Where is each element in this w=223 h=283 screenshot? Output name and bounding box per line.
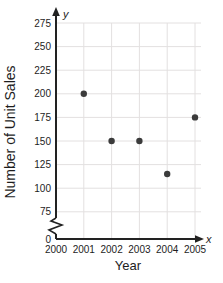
data-point-2003 [136, 138, 142, 144]
y-tick-label: 200 [34, 88, 51, 99]
x-tick-label: 2002 [100, 244, 123, 255]
chart-canvas: 0751001251501752002252502752000200120022… [0, 0, 223, 283]
data-point-2001 [81, 91, 87, 97]
x-tick-label: 2000 [45, 244, 68, 255]
data-point-2002 [108, 138, 114, 144]
chart-generated-layer: 0751001251501752002252502752000200120022… [34, 7, 206, 255]
y-axis-break [49, 218, 62, 234]
y-tick-label: 275 [34, 18, 51, 29]
unit-sales-scatter-chart: 0751001251501752002252502752000200120022… [0, 0, 223, 283]
y-axis-variable-label: y [62, 8, 70, 20]
y-tick-label: 175 [34, 112, 51, 123]
x-axis-arrowhead [195, 235, 204, 243]
y-tick-label: 100 [34, 183, 51, 194]
y-tick-label: 125 [34, 159, 51, 170]
y-tick-label: 250 [34, 41, 51, 52]
x-tick-label: 2005 [184, 244, 207, 255]
y-axis-title: Number of Unit Sales [2, 65, 18, 198]
y-tick-label: 75 [40, 206, 52, 217]
y-tick-label: 225 [34, 65, 51, 76]
x-tick-label: 2001 [73, 244, 96, 255]
data-point-2005 [192, 114, 198, 120]
x-axis-title: Year [115, 258, 142, 273]
y-axis-arrowhead [52, 7, 60, 16]
y-tick-label: 150 [34, 136, 51, 147]
x-tick-label: 2003 [128, 244, 151, 255]
x-axis-variable-label: x [205, 233, 212, 245]
data-point-2004 [164, 171, 170, 177]
x-tick-label: 2004 [156, 244, 179, 255]
